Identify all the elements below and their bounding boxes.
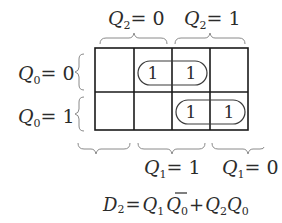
karnaugh-map-diagram: Q2= 0 Q2= 1 Q0= 0 Q0= 1 1 1 1 1 Q1= 1 Q1… [0,0,282,223]
top-brace-q2-1 [175,33,245,44]
cell-r0-c1: 1 [148,63,159,83]
bottom-brace-q1-0 [212,143,264,154]
equation-text: D2=Q1Q0+Q2Q0 [102,194,249,218]
column-group-label-q2-1: Q2= 1 [184,7,241,32]
bottom-label-q1-0: Q1= 0 [222,156,279,181]
cell-r1-c2: 1 [186,102,197,122]
left-brace-q0-1 [75,97,84,131]
column-group-label-q2-0: Q2= 0 [108,7,165,32]
top-brace-q2-0 [100,33,167,44]
boolean-equation: D2=Q1Q0+Q2Q0 [102,193,249,218]
row-label-q0-0: Q0= 0 [18,62,75,87]
row-label-q0-1: Q0= 1 [18,105,75,130]
bottom-brace-q1-1 [138,143,205,154]
bottom-brace-outer [78,143,130,154]
cell-r0-c2: 1 [186,63,197,83]
bottom-label-q1-1: Q1= 1 [144,156,201,181]
left-brace-q0-0 [75,54,84,90]
cell-r1-c3: 1 [224,102,235,122]
